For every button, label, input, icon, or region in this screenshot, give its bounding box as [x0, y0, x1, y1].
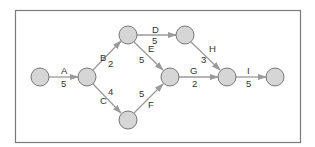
label-d-name: D: [152, 24, 159, 35]
label-g-name: G: [190, 65, 197, 76]
node-7: [218, 68, 236, 86]
label-c-duration: 4: [108, 86, 113, 97]
edge-c: [93, 84, 121, 113]
label-h-name: H: [209, 43, 216, 54]
label-i-name: I: [247, 65, 250, 76]
label-a-duration: 5: [61, 78, 66, 89]
node-2: [78, 68, 96, 86]
label-g-duration: 2: [192, 78, 197, 89]
network-diagram: A 5 B 2 C 4 D 5 E 5 5 F G 2 H 3 I 5: [0, 0, 315, 147]
label-h-duration: 3: [201, 54, 206, 65]
node-6: [161, 68, 179, 86]
label-b-name: B: [100, 52, 106, 63]
edge-b: [93, 41, 121, 70]
label-f-name: F: [148, 99, 154, 110]
node-1: [31, 68, 49, 86]
node-4: [176, 26, 194, 44]
label-c-name: C: [100, 95, 107, 106]
node-3: [119, 26, 137, 44]
label-i-duration: 5: [246, 78, 251, 89]
label-e-name: E: [148, 43, 154, 54]
node-8: [266, 68, 284, 86]
label-a-name: A: [61, 65, 68, 76]
label-e-duration: 5: [139, 54, 144, 65]
label-f-duration: 5: [139, 88, 144, 99]
node-5: [119, 111, 137, 129]
label-b-duration: 2: [108, 58, 113, 69]
